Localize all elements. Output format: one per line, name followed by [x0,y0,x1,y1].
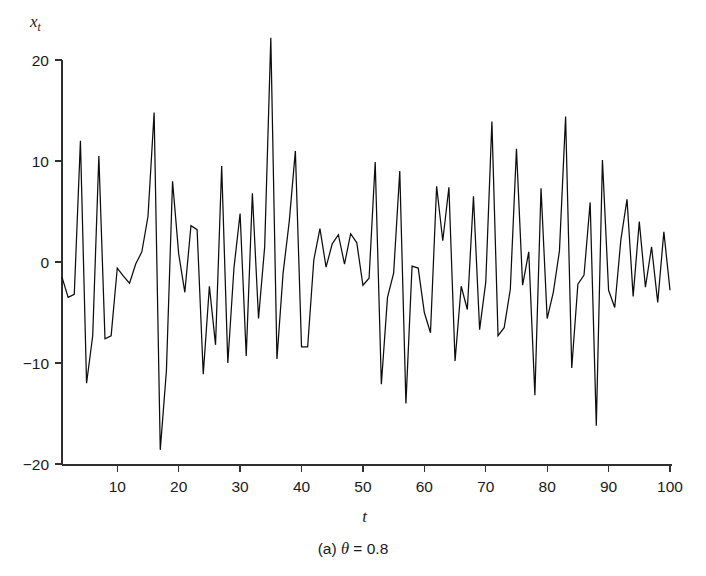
y-axis-ticks: −20−1001020 [23,52,62,473]
series-line-xt [62,38,670,450]
figure-container: −20−1001020 102030405060708090100 xt t (… [0,0,706,576]
y-axis-title: xt [29,12,42,33]
y-tick-label: −20 [23,456,50,473]
y-tick-label: 10 [32,153,50,170]
caption-theta-symbol: θ [341,539,349,558]
x-tick-label: 40 [293,478,311,495]
time-series-plot: −20−1001020 102030405060708090100 xt t [0,0,706,576]
x-tick-label: 90 [600,478,618,495]
x-tick-label: 100 [657,478,683,495]
y-tick-label: −10 [23,355,50,372]
x-tick-label: 60 [416,478,434,495]
figure-caption: (a) θ = 0.8 [0,539,706,559]
x-tick-label: 10 [109,478,127,495]
x-tick-label: 20 [170,478,188,495]
x-tick-label: 50 [354,478,372,495]
y-tick-label: 0 [40,254,49,271]
x-tick-label: 70 [477,478,495,495]
x-tick-label: 80 [539,478,557,495]
x-axis-title: t [362,507,368,526]
x-tick-label: 30 [231,478,249,495]
x-axis-ticks: 102030405060708090100 [109,465,684,495]
y-tick-label: 20 [32,52,50,69]
